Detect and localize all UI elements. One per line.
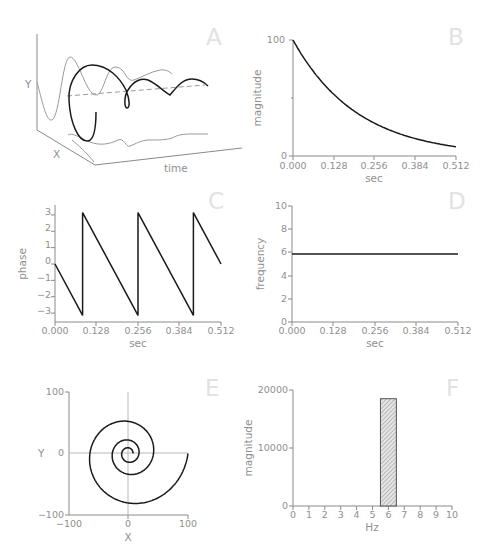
panel-e-y-label: Y (37, 447, 45, 459)
panel-f-xtick: 9 (433, 509, 439, 520)
panel-e-spiral (90, 421, 188, 503)
panel-c-ytick: −3 (37, 305, 51, 316)
panel-b-y-label: magnitude (251, 70, 263, 127)
panel-b-x-label: sec (365, 172, 383, 184)
panel-c-ytick: −1 (37, 272, 51, 283)
panel-d-y-label: frequency (254, 238, 266, 291)
panel-c-ytick: 1 (45, 239, 51, 250)
panel-b-xtick: 0.512 (442, 160, 469, 171)
panel-f-xtick: 5 (369, 509, 375, 520)
panel-c-phase-curve (55, 213, 221, 316)
panel-f-ytick: 20000 (258, 384, 288, 395)
panel-d-x-label: sec (366, 337, 384, 349)
panel-f-xtick: 6 (385, 509, 391, 520)
panel-d-ytick: 4 (281, 270, 287, 281)
panel-c-ytick: 0 (45, 255, 51, 266)
panel-a-helix (69, 65, 208, 141)
panel-e-xtick: −100 (56, 518, 82, 529)
panel-f-xtick: 7 (401, 509, 407, 520)
panel-a-y-projection (37, 57, 172, 120)
panel-f: F 20000 10000 0 012345678910 Hz magnitud… (242, 375, 459, 533)
panel-f-x-label: Hz (365, 521, 379, 533)
panel-c: C 3 2 1 0 −1 −2 −3 0.000 0.128 0.256 0.3… (16, 188, 235, 349)
panel-a-x-projection-tail (72, 140, 94, 162)
panel-a-y-label: Y (24, 78, 32, 90)
panel-b-xtick: 0.384 (401, 160, 428, 171)
panel-c-y-label: phase (16, 248, 28, 280)
panel-a-time-label: time (164, 162, 188, 174)
panel-e: E 100 0 −100 −100 0 100 X Y (37, 375, 220, 543)
panel-d-ytick: 10 (275, 200, 287, 211)
panel-d: D 10 8 6 4 2 0 0.000 0.128 0.256 0.384 0… (254, 188, 472, 349)
panel-d-xtick: 0.384 (402, 325, 429, 336)
panel-a-x-axis (37, 130, 95, 165)
panel-f-xtick: 3 (338, 509, 344, 520)
panel-b-ytick-100: 100 (267, 34, 285, 45)
panel-d-y-ticks (288, 206, 292, 322)
panel-c-ytick: 3 (45, 206, 51, 217)
panel-c-y-ticks (51, 215, 55, 313)
panel-f-xtick: 8 (417, 509, 423, 520)
panel-e-letter: E (205, 375, 220, 401)
panel-b: B 100 0 0.000 0.128 0.256 0.384 0.512 se… (251, 24, 470, 184)
panel-d-xtick: 0.000 (278, 325, 305, 336)
panel-c-ytick: 2 (45, 222, 51, 233)
panel-a: A Y X time (24, 24, 242, 174)
panel-f-xtick: 4 (354, 509, 360, 520)
panel-d-ytick: 2 (281, 293, 287, 304)
panel-b-letter: B (448, 24, 464, 50)
panel-f-y-label: magnitude (242, 420, 254, 477)
panel-b-xtick: 0.256 (360, 160, 387, 171)
panel-c-xtick: 0.000 (41, 325, 68, 336)
panel-c-letter: C (208, 188, 224, 214)
panel-f-spectrum-bar (380, 399, 396, 506)
panel-b-xtick: 0.128 (320, 160, 347, 171)
panel-e-xtick: 100 (179, 518, 197, 529)
panel-d-ytick: 8 (281, 223, 287, 234)
panel-d-ytick: 6 (281, 246, 287, 257)
panel-e-ytick: 0 (58, 447, 64, 458)
panel-f-xtick: 1 (306, 509, 312, 520)
panel-e-xtick: 0 (125, 518, 131, 529)
panel-f-xtick: 10 (446, 509, 458, 520)
panel-d-xtick: 0.256 (361, 325, 388, 336)
panel-c-xtick: 0.256 (124, 325, 151, 336)
panel-d-letter: D (448, 188, 466, 214)
panel-e-ytick: 100 (46, 386, 64, 397)
panel-d-xtick: 0.128 (319, 325, 346, 336)
panel-f-ytick: 0 (282, 500, 288, 511)
panel-a-letter: A (206, 24, 222, 50)
figure-canvas: A Y X time B 100 0 0.000 0.128 0.256 (0, 0, 485, 553)
panel-e-x-label: X (124, 531, 131, 543)
panel-c-x-label: sec (129, 337, 147, 349)
panel-b-xtick: 0.000 (279, 160, 306, 171)
panel-f-xtick: 0 (290, 509, 296, 520)
panel-f-xtick: 2 (322, 509, 328, 520)
panel-f-ytick: 10000 (258, 442, 288, 453)
panel-c-xtick: 0.128 (82, 325, 109, 336)
panel-b-decay-curve (293, 40, 456, 147)
panel-c-xtick: 0.512 (207, 325, 234, 336)
panel-f-letter: F (446, 375, 459, 401)
panel-c-ytick: −2 (37, 289, 51, 300)
panel-d-xtick: 0.512 (444, 325, 471, 336)
panel-c-xtick: 0.384 (165, 325, 192, 336)
panel-a-x-label: X (53, 148, 60, 160)
